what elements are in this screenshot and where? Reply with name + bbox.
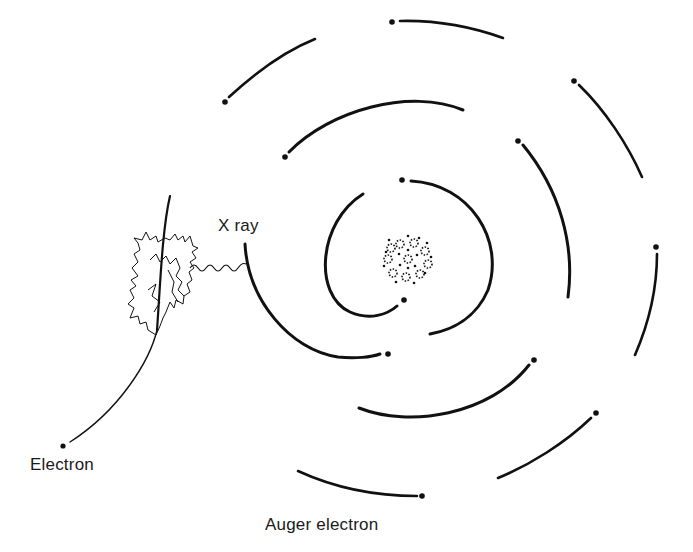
x-ray-wave — [190, 264, 246, 272]
electron-dot — [222, 99, 228, 105]
auger-electron-label: Auger electron — [265, 515, 378, 535]
electron-label: Electron — [30, 455, 94, 475]
electron-dot — [401, 297, 407, 303]
electron-dot — [653, 244, 659, 250]
atom-diagram — [0, 0, 693, 552]
electron-start-dot — [60, 443, 65, 448]
shell-outer — [222, 19, 659, 499]
electron-dot — [282, 154, 288, 160]
electron-dot — [389, 19, 395, 25]
x-ray-label: X ray — [218, 216, 259, 236]
electron-path — [60, 196, 170, 449]
electron-dot — [571, 78, 577, 84]
electron-dot — [515, 138, 521, 144]
electron-dot — [385, 351, 391, 357]
shell-middle — [245, 101, 570, 417]
electron-dot — [399, 177, 405, 183]
nucleus — [383, 235, 433, 285]
auger-electron-dot — [419, 493, 425, 499]
electron-dot — [593, 410, 599, 416]
electron-dot — [531, 357, 537, 363]
